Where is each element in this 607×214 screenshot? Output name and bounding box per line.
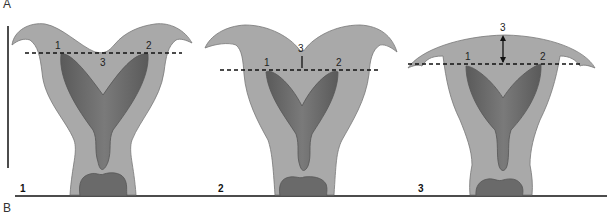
cervix [279,177,327,196]
cervix [79,173,127,196]
point-label: 2 [540,51,546,62]
figure-label-b: B [3,201,11,214]
point-label: 3 [500,22,506,33]
point-label: 1 [264,57,270,68]
panel-1: 1 2 3 1 [12,24,192,196]
point-label: 2 [336,57,342,68]
panel-number: 3 [418,183,424,194]
panel-2: 1 2 3 2 [205,25,397,196]
cervix [476,179,523,196]
point-label: 1 [465,51,471,62]
point-label: 3 [298,43,304,54]
panel-number: 1 [20,183,26,194]
uterine-diagram: A 1 2 3 1 1 2 3 2 1 2 3 3 [0,0,607,214]
point-label: 2 [146,40,152,51]
point-label: 3 [100,57,106,68]
panel-3: 1 2 3 3 [408,22,595,196]
point-label: 1 [55,40,61,51]
figure-label-a: A [3,0,11,11]
panel-number: 2 [218,183,224,194]
